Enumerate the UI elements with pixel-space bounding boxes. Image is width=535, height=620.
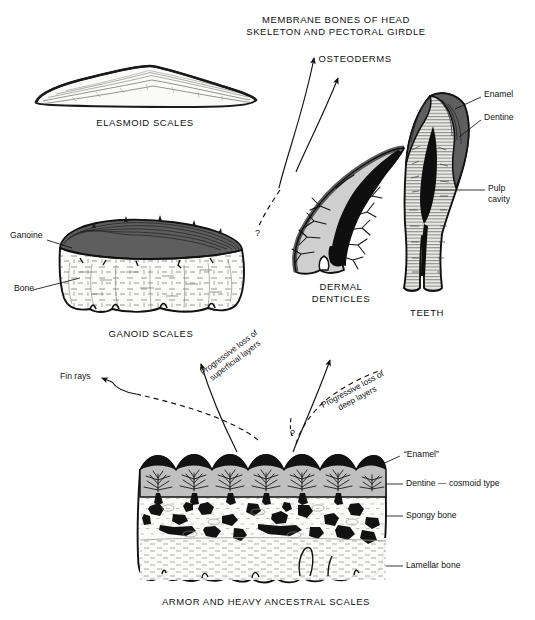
caption-ganoid-scales: GANOID SCALES [86, 328, 216, 340]
armor-scale-illustration [138, 454, 403, 583]
curve-to-fin-rays [112, 382, 136, 394]
caption-teeth: TEETH [392, 307, 462, 319]
arrow-osteoderms [296, 78, 338, 172]
label-pulp-cavity: Pulp cavity [488, 183, 510, 204]
caption-elasmoid-scales: ELASMOID SCALES [80, 117, 210, 129]
elasmoid-scale-illustration [36, 66, 256, 107]
question-mark-upper: ? [255, 228, 260, 238]
label-ganoine: Ganoine [10, 230, 43, 241]
label-armor-enamel: “Enamel” [404, 449, 439, 460]
label-spongy-bone: Spongy bone [406, 510, 457, 521]
caption-membrane-bones: MEMBRANE BONES OF HEAD SKELETON AND PECT… [231, 14, 441, 38]
dermal-denticle-illustration [292, 148, 404, 274]
label-dentine: Dentine [484, 112, 514, 123]
arrow-membrane-bones [279, 58, 314, 188]
label-enamel: Enamel [484, 89, 513, 100]
ganoid-scale-illustration [33, 215, 244, 312]
caption-osteoderms: OSTEODERMS [300, 53, 410, 65]
caption-dermal-denticles: DERMAL DENTICLES [296, 281, 386, 305]
tooth-illustration [404, 93, 485, 291]
dermal-skeleton-diagram: MEMBRANE BONES OF HEAD SKELETON AND PECT… [0, 0, 535, 620]
arrow-fin-rays-head [102, 378, 112, 382]
question-mark-center: ? [290, 428, 295, 438]
caption-armor-scales: ARMOR AND HEAVY ANCESTRAL SCALES [136, 596, 396, 608]
dashed-uncertain-upper [259, 190, 280, 226]
label-lamellar-bone: Lamellar bone [406, 560, 460, 571]
label-armor-dentine: Dentine — cosmoid type [406, 478, 500, 489]
dashed-to-fin-rays [136, 394, 258, 440]
label-bone: Bone [14, 283, 34, 294]
label-fin-rays: Fin rays [60, 371, 91, 382]
